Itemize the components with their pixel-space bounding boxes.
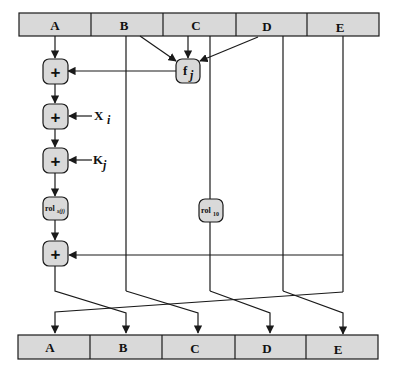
bottom-cell-b: B [119, 340, 128, 355]
input-x-subscript: i [107, 113, 111, 127]
top-cell-c: C [191, 18, 200, 33]
top-cell-d: D [262, 19, 271, 34]
bottom-cell-a: A [45, 340, 55, 355]
add-symbol: + [51, 108, 61, 127]
top-cell-b: B [120, 18, 129, 33]
bottom-cell-d: D [262, 341, 271, 356]
rotate-subscript: s(j) [56, 208, 65, 215]
add-symbol: + [51, 245, 61, 264]
rotate-label: rol [201, 206, 211, 215]
add-op-4: + [43, 241, 68, 266]
rotate-sj-box: rol s(j) [43, 197, 68, 220]
add-symbol: + [51, 152, 61, 171]
top-register: A B C D E [19, 13, 379, 36]
input-xi: X i [94, 108, 111, 127]
add-op-2: + [43, 104, 68, 129]
input-kj: K j [93, 152, 107, 172]
add-symbol: + [51, 63, 61, 82]
top-cell-a: A [50, 18, 60, 33]
bottom-register: A B C D E [18, 335, 378, 359]
rotate-10-box: rol 10 [199, 199, 223, 222]
add-op-1: + [43, 59, 68, 84]
bottom-cell-e: E [334, 342, 343, 357]
bottom-cell-c: C [190, 341, 199, 356]
function-fj-box: f j [176, 59, 200, 83]
rotate-subscript: 10 [213, 211, 219, 217]
add-op-3: + [43, 148, 68, 173]
ripemd-step-diagram: A B C D E [0, 0, 395, 373]
input-x-label: X [94, 108, 104, 123]
top-cell-e: E [336, 20, 345, 35]
function-label: f [183, 63, 188, 78]
rotate-label: rol [45, 204, 55, 213]
